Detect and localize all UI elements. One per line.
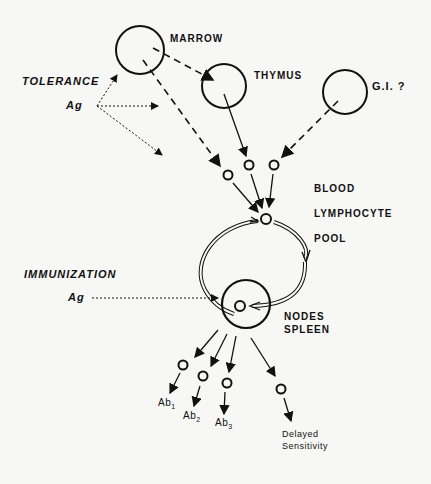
pool-label: POOL	[314, 233, 346, 244]
ab1-label: Ab1	[158, 397, 176, 410]
ab3-label: Ab3	[215, 417, 233, 430]
spleen-label: SPLEEN	[284, 324, 330, 335]
gi-circle	[323, 70, 367, 114]
sensitivity-label: Sensitivity	[282, 441, 328, 451]
cell-ab2	[199, 372, 208, 381]
cell-nodes	[235, 301, 245, 311]
cell-marrow-1	[224, 171, 233, 180]
tolerance-ag-label: Ag	[66, 99, 83, 111]
nodes-label: NODES	[284, 311, 325, 322]
delayed-label: Delayed	[282, 429, 319, 439]
cell-thymus	[245, 161, 254, 170]
cell-delayed	[277, 385, 286, 394]
thymus-circle	[202, 64, 246, 108]
immunization-label: IMMUNIZATION	[24, 268, 116, 280]
immunization-ag-label: Ag	[68, 291, 85, 303]
gi-label: G.I. ?	[372, 80, 406, 92]
diagram-canvas	[0, 0, 431, 484]
marrow-label: MARROW	[170, 33, 223, 44]
cell-pool	[261, 214, 271, 224]
tolerance-label: TOLERANCE	[22, 75, 99, 87]
lymphocyte-label: LYMPHOCYTE	[314, 208, 393, 219]
cell-ab1	[179, 361, 188, 370]
ab2-label: Ab2	[183, 410, 201, 423]
cell-ab3	[223, 379, 232, 388]
cell-gi	[270, 161, 279, 170]
thymus-label: THYMUS	[254, 70, 302, 81]
blood-label: BLOOD	[314, 183, 355, 194]
